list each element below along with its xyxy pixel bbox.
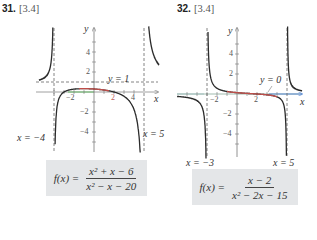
- graph-32-ytick: 4: [229, 49, 233, 58]
- formula-box-32: f(x) = x − 2 x² − 2x − 15: [192, 169, 298, 205]
- function-curve-branch: [177, 96, 206, 158]
- graph-31-horizontal-asymptote-label: y = 1: [108, 73, 129, 84]
- formula-32-fraction: x − 2 x² − 2x − 15: [229, 174, 290, 201]
- formula-32-denominator: x² − 2x − 15: [229, 188, 290, 201]
- formula-box-31: f(x) = x² + x − 6 x² − x − 20: [46, 160, 147, 196]
- graph-32-ytick: 2: [229, 69, 233, 78]
- formula-31-denominator: x² − x − 20: [83, 179, 139, 192]
- graph-32-right-asymptote-label: x = 5: [273, 157, 294, 168]
- graph-32-horizontal-asymptote-label: y = 0: [260, 74, 281, 85]
- function-curve-branch: [39, 28, 53, 81]
- graph-31-left-asymptote-label: x = −4: [17, 132, 45, 143]
- graph-32-y-axis-label: y: [228, 25, 232, 36]
- graph-31-ytick: −2: [80, 107, 89, 116]
- graph-32-ytick: −4: [223, 129, 232, 138]
- formula-32-lhs: f(x) =: [200, 181, 225, 193]
- function-curve-branch: [288, 27, 302, 91]
- graph-32-ytick: −2: [223, 109, 232, 118]
- formula-31-lhs: f(x) =: [54, 172, 79, 184]
- graph-32-xtick: 2: [254, 95, 258, 104]
- graph-31: [36, 26, 159, 152]
- graph-31-ytick: 2: [86, 67, 90, 76]
- formula-32-numerator: x − 2: [245, 174, 274, 188]
- graph-31-y-axis-label: y: [84, 23, 88, 34]
- formula-31-numerator: x² + x − 6: [86, 165, 136, 179]
- graph-31-right-asymptote-label: x = 5: [143, 128, 164, 139]
- graph-31-ytick: 4: [86, 48, 90, 57]
- function-curve-branch: [149, 26, 159, 65]
- formula-31-fraction: x² + x − 6 x² − x − 20: [83, 165, 139, 192]
- graph-31-xtick: 2: [111, 93, 115, 102]
- graph-32-x-axis-label: x: [300, 96, 304, 107]
- graph-31-xtick: −2: [66, 93, 75, 102]
- graph-31-xtick: 4: [131, 93, 135, 102]
- y0-label-leader: [268, 86, 272, 92]
- graph-32-xtick: −2: [210, 95, 219, 104]
- graph-31-x-axis-label: x: [154, 93, 158, 104]
- graph-31-ytick: −4: [80, 127, 89, 136]
- graph-32-left-asymptote-label: x = −3: [186, 157, 214, 168]
- graph-32: [177, 27, 302, 159]
